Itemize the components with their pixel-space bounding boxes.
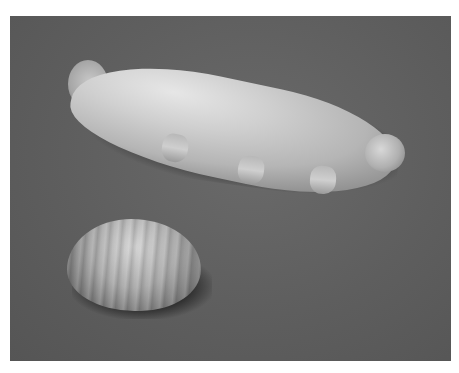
tun-tardigrade [67, 219, 201, 311]
tardigrade-head [365, 134, 405, 172]
active-tardigrade-body [62, 47, 406, 213]
sem-micrograph [10, 16, 451, 361]
